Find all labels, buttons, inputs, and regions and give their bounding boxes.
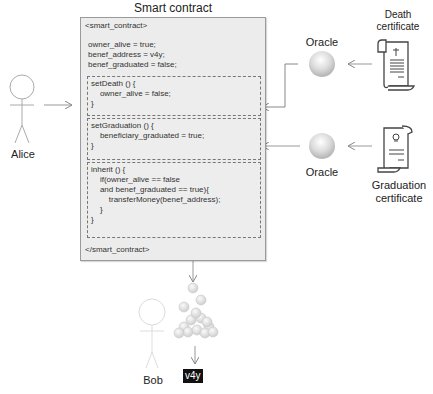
beneficiary-address-badge: v4y	[183, 369, 203, 383]
coins-pile-icon	[0, 0, 433, 394]
